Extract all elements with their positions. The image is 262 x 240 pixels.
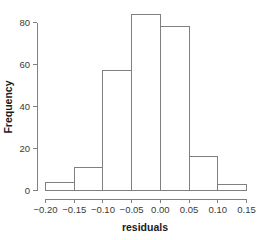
histogram-figure: 020406080 −0.20−0.15−0.10−0.050.000.050.… bbox=[0, 0, 262, 240]
x-tick-label: 0.00 bbox=[151, 204, 170, 215]
histogram-bar bbox=[160, 27, 189, 191]
y-tick-label: 0 bbox=[25, 185, 30, 196]
x-tick-label: −0.15 bbox=[62, 204, 86, 215]
y-axis-title: Frequency bbox=[2, 80, 14, 133]
x-tick-label: 0.10 bbox=[209, 204, 228, 215]
histogram-bar bbox=[132, 14, 161, 190]
x-tick-label: −0.20 bbox=[33, 204, 57, 215]
y-tick-label: 80 bbox=[19, 17, 30, 28]
histogram-canvas: 020406080 −0.20−0.15−0.10−0.050.000.050.… bbox=[0, 0, 262, 240]
y-axis-ticks: 020406080 bbox=[19, 17, 37, 196]
histogram-bar bbox=[46, 182, 75, 190]
y-tick-label: 40 bbox=[19, 101, 30, 112]
histogram-bars bbox=[46, 14, 247, 190]
x-tick-label: 0.05 bbox=[180, 204, 199, 215]
histogram-bar bbox=[218, 184, 247, 190]
x-tick-label: 0.15 bbox=[237, 204, 256, 215]
histogram-bar bbox=[74, 167, 103, 190]
histogram-bar bbox=[103, 71, 132, 191]
y-tick-label: 20 bbox=[19, 143, 30, 154]
x-tick-label: −0.10 bbox=[91, 204, 115, 215]
x-axis-ticks: −0.20−0.15−0.10−0.050.000.050.100.15 bbox=[33, 199, 255, 215]
x-tick-label: −0.05 bbox=[120, 204, 144, 215]
x-axis-title: residuals bbox=[122, 221, 168, 233]
histogram-bar bbox=[189, 157, 218, 191]
y-tick-label: 60 bbox=[19, 59, 30, 70]
